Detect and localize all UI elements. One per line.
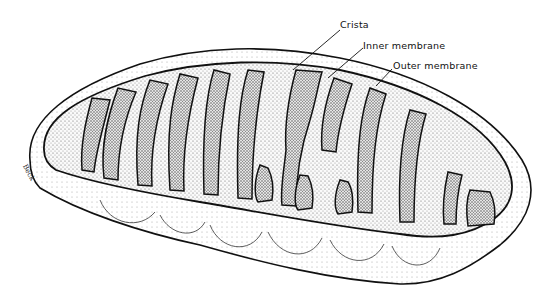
- mitochondrion-illustration: [0, 0, 548, 296]
- mitochondrion-diagram: Crista Inner membrane Outer membrane Bec…: [0, 0, 548, 296]
- label-inner-membrane: Inner membrane: [363, 40, 445, 51]
- label-crista: Crista: [340, 19, 369, 30]
- label-outer-membrane: Outer membrane: [393, 60, 478, 71]
